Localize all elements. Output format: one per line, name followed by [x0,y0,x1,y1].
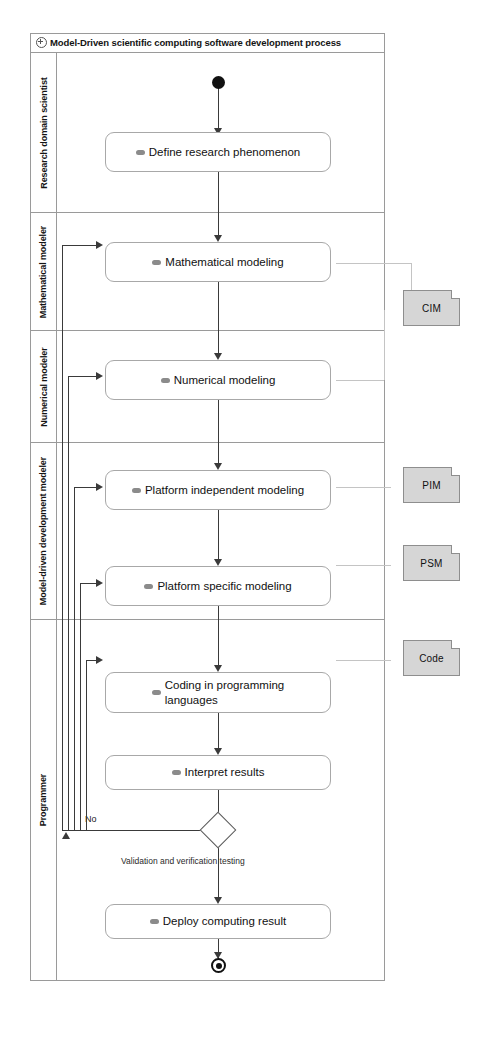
action-icon [136,150,145,155]
edge-arrow [96,579,103,587]
page-fold-icon [451,545,460,554]
action-label: Platform specific modeling [157,579,291,593]
action-mathematical-modeling[interactable]: Mathematical modeling [105,242,331,282]
action-icon [150,919,159,924]
action-platform-independent-modeling[interactable]: Platform independent modeling [105,470,331,510]
edge-arrow [96,483,103,491]
action-label: Deploy computing result [163,914,286,928]
artifact-label: Code [419,653,444,664]
artifact-label: PSM [420,558,442,569]
edge-arrow [214,235,222,242]
activity-final-node [211,958,226,973]
edge-arrow [62,832,70,839]
action-label: Interpret results [185,765,265,779]
feedback-line-coding [86,660,87,831]
swimlane-header: Research domain scientist [31,53,57,212]
edge-arrow [96,241,103,249]
dependency-line-cim [336,263,411,264]
edge-arrow [214,559,222,566]
sidebar-item-label: Research domain scientist [39,77,49,189]
artifact-code[interactable]: Code [403,640,460,676]
sidebar-item-label: Numerical modeler [39,347,49,426]
page-fold-icon [451,290,460,299]
edge-pim-to-psm [218,510,219,562]
action-interpret-results[interactable]: Interpret results [105,755,331,790]
action-icon [161,378,170,383]
edge-arrow [214,463,222,470]
edge-psm-to-coding [218,606,219,668]
artifact-psm[interactable]: PSM [403,545,460,581]
swimlane-header: Programmer [31,620,57,980]
action-platform-specific-modeling[interactable]: Platform specific modeling [105,566,331,606]
action-define-research-phenomenon[interactable]: Define research phenomenon [105,132,331,172]
dependency-line-pim [336,487,391,488]
dependency-line-code [336,660,391,661]
feedback-line-psm [80,583,81,831]
edge-math-to-numerical [218,282,219,356]
sidebar-item-label: Model-driven development modeler [39,457,49,605]
action-label: Mathematical modeling [165,255,283,269]
action-label: Platform independent modeling [145,483,304,497]
feedback-line-numerical [68,376,69,831]
swimlane-header: Model-driven development modeler [31,443,57,619]
edge-arrow [214,353,222,360]
page-fold-icon [451,467,460,476]
action-icon [172,770,181,775]
action-icon [144,584,153,589]
dependency-line-cim-2v [384,310,385,380]
artifact-label: PIM [422,480,440,491]
edge-define-to-math [218,172,219,238]
feedback-line-mathematical-h [62,245,100,246]
activity-frame-icon [36,37,47,48]
edge-arrow [214,897,222,904]
swimlane-header: Mathematical modeler [31,213,57,330]
action-icon [132,488,141,493]
action-icon [152,690,161,695]
dependency-line-cim-2 [336,380,384,381]
action-icon [152,260,161,265]
activity-diagram: Model-Driven scientific computing softwa… [0,0,478,1046]
decision-node-label: Validation and verification testing [121,856,245,866]
feedback-line-mathematical [62,245,63,831]
swimlane-header: Numerical modeler [31,331,57,442]
diagram-title-bar: Model-Driven scientific computing softwa… [30,33,385,53]
sidebar-item-label: Programmer [39,774,49,827]
edge-arrow [214,748,222,755]
artifact-cim[interactable]: CIM [403,290,460,326]
feedback-line-pim [74,487,75,831]
page-title: Model-Driven scientific computing softwa… [50,37,341,48]
edge-arrow [96,372,103,380]
action-label: Numerical modeling [174,373,276,387]
page-fold-icon [451,640,460,649]
edge-numerical-to-pim [218,400,219,466]
action-label-line1: Coding in programming [165,679,285,691]
initial-node [212,76,225,89]
artifact-pim[interactable]: PIM [403,467,460,503]
action-numerical-modeling[interactable]: Numerical modeling [105,360,331,400]
edge-coding-to-interpret [218,713,219,751]
action-label-line2: languages [165,694,218,706]
action-label: Define research phenomenon [149,145,301,159]
edge-arrow [214,665,222,672]
artifact-label: CIM [422,303,441,314]
action-coding-in-programming-languages[interactable]: Coding in programming languages [105,672,331,713]
action-deploy-computing-result[interactable]: Deploy computing result [105,904,331,939]
action-label-wrapper: Coding in programming languages [165,678,285,707]
sidebar-item-label: Mathematical modeler [39,225,49,318]
edge-arrow [96,656,103,664]
dependency-line-psm [336,565,391,566]
edge-initial-to-define [218,88,219,132]
